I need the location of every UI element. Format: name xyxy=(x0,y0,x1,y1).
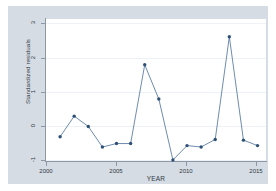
data-point xyxy=(115,142,118,145)
data-point xyxy=(171,158,174,161)
data-point xyxy=(256,144,259,147)
data-point xyxy=(214,138,217,141)
data-point xyxy=(129,142,132,145)
data-point xyxy=(228,35,231,38)
series-markers xyxy=(58,35,259,162)
data-point xyxy=(242,138,245,141)
data-point xyxy=(199,145,202,148)
data-point xyxy=(143,63,146,66)
data-point xyxy=(101,145,104,148)
data-point xyxy=(185,144,188,147)
chart-screenshot: 3 2 1 0 -1 2000 2005 2010 2015 Standardi… xyxy=(0,0,276,191)
data-point xyxy=(73,114,76,117)
data-point xyxy=(87,125,90,128)
series-plot xyxy=(8,6,268,184)
graph-region: 3 2 1 0 -1 2000 2005 2010 2015 Standardi… xyxy=(8,6,268,184)
data-point xyxy=(157,97,160,100)
data-point xyxy=(58,135,61,138)
